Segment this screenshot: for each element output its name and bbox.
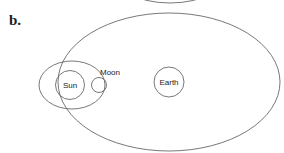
moon-label: Moon [100,68,120,77]
earth-label: Earth [159,78,178,87]
moon-circle [92,78,107,93]
previous-panel-ellipse-edge [110,0,230,3]
orbit-diagram: Sun Moon Earth [0,0,284,153]
sun-label: Sun [63,81,77,90]
